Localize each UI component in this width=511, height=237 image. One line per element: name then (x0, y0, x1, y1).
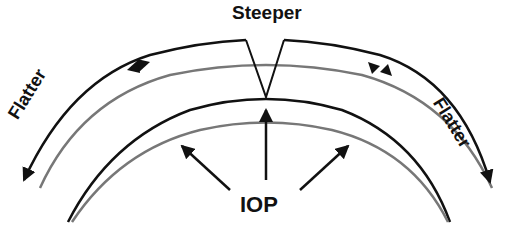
steeper-label: Steeper (232, 2, 302, 24)
iop-arrow-right (300, 146, 348, 190)
iop-label: IOP (240, 192, 278, 218)
mid-arc-marker-right (368, 62, 392, 76)
iop-arrow-left (182, 146, 230, 190)
outer-black-arc-right (284, 40, 490, 182)
steeper-notch (246, 40, 284, 97)
